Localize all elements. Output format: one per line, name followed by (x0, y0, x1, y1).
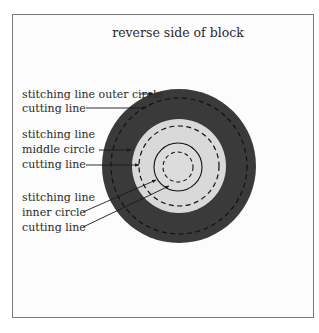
label-outer-stitching: stitching line outer circle (22, 88, 163, 101)
label-inner-cutting: cutting line (22, 221, 86, 234)
diagram-title: reverse side of block (112, 25, 244, 40)
inner-circle (154, 143, 202, 191)
label-middle-stitching-2: middle circle (22, 143, 95, 156)
circle-block-diagram: reverse side of block stitching line out… (0, 0, 319, 333)
label-inner-stitching-2: inner circle (22, 206, 86, 219)
label-outer-cutting: cutting line (22, 102, 86, 115)
label-middle-stitching-1: stitching line (22, 128, 95, 141)
label-inner-stitching-1: stitching line (22, 191, 95, 204)
label-middle-cutting: cutting line (22, 158, 86, 171)
